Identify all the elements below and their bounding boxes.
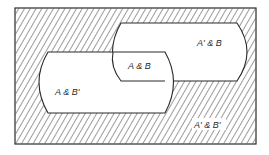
label-a-comp-and-b-comp: A' & B': [193, 120, 221, 130]
label-a-and-b: A & B: [127, 61, 151, 71]
label-a-comp-and-b: A' & B: [196, 38, 222, 48]
set-a-shape: [39, 52, 174, 113]
label-a-and-b-comp: A & B': [54, 87, 80, 97]
venn-diagram: A' & B A & B A & B' A' & B': [0, 0, 269, 155]
